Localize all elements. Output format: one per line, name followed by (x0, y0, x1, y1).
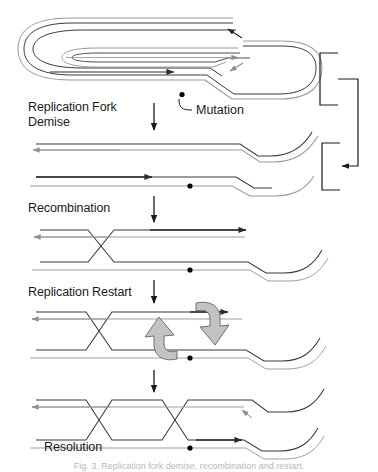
fork-junction-light (213, 62, 226, 67)
mutation-leader-line (179, 99, 192, 110)
fork-junction-upper (210, 68, 222, 76)
mutation-dot-linear (187, 183, 192, 188)
stage-label-recombination: Recombination (28, 201, 110, 216)
crossover-light-bottom (32, 258, 328, 281)
mutation-dot-restart (187, 355, 192, 360)
crossover-strand-a (40, 230, 322, 273)
panel-theta-structure (18, 18, 322, 110)
mutation-dot-crossover (187, 267, 192, 272)
upper-duplex-light (36, 136, 318, 162)
stage-label-replication-restart: Replication Restart (28, 285, 132, 300)
panel-collapsed-fork (30, 132, 318, 196)
arrow-fork-lower (230, 63, 243, 71)
arrow-resolution-fork-small (242, 410, 252, 418)
restart-strand-b (36, 312, 228, 350)
upper-duplex-dark (36, 132, 312, 156)
resolution-strand-a (36, 400, 238, 440)
panel-replication-restart (30, 302, 326, 369)
gray-block-arrow-up (145, 317, 177, 360)
bracket-connector-arrow (338, 79, 358, 166)
restart-light-bottom (30, 346, 326, 369)
figure-caption: Fig. 3. Replication fork demise, recombi… (0, 461, 378, 471)
bracket-upper (320, 53, 338, 105)
outer-light-strand-upper (18, 18, 233, 80)
figure-container: Replication Fork Demise Mutation Recombi… (0, 0, 378, 472)
panel-single-crossover (32, 230, 328, 281)
lower-duplex-light (30, 176, 314, 196)
annotation-label-mutation: Mutation (196, 103, 244, 117)
diagram-canvas (0, 0, 378, 472)
bracket-group (320, 53, 358, 190)
fork-junction-mid (215, 58, 250, 62)
mutation-dot-resolution (187, 445, 192, 450)
gray-block-arrow-down (196, 302, 229, 345)
mutation-dot-theta (179, 92, 184, 97)
stage-label-replication-fork-demise: Replication Fork Demise (28, 100, 117, 129)
stage-label-resolution: Resolution (44, 440, 102, 455)
resolution-strand-a-right (238, 389, 324, 412)
crossover-strand-b (40, 230, 246, 262)
bracket-lower (322, 143, 340, 190)
